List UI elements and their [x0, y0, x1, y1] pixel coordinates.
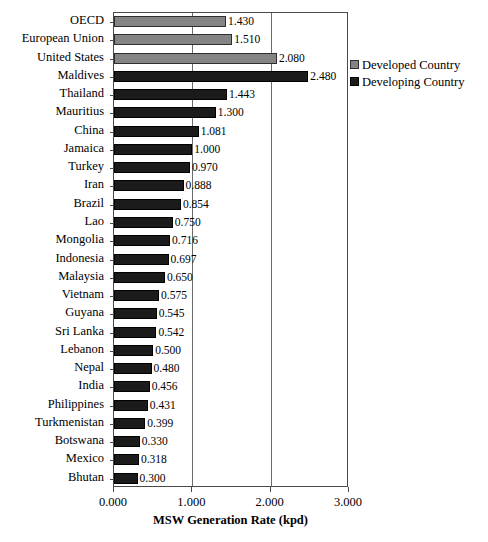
category-label: Botswana [0, 434, 108, 447]
bar-row: 0.888 [114, 177, 347, 195]
bar [114, 235, 170, 246]
bar-value-label: 1.430 [226, 14, 254, 29]
plot-area: 1.4301.5102.0802.4801.4431.3001.0811.000… [113, 12, 348, 487]
category-label: Malaysia [0, 270, 108, 283]
bar [114, 254, 169, 265]
category-label: Mongolia [0, 233, 108, 246]
bar-value-label: 1.000 [192, 142, 220, 157]
bar [114, 126, 199, 137]
category-label: India [0, 379, 108, 392]
bar [114, 473, 138, 484]
x-axis-tick [191, 487, 192, 492]
bar [114, 345, 153, 356]
bar-row: 0.750 [114, 214, 347, 232]
category-label: Turkey [0, 160, 108, 173]
bar-row: 1.430 [114, 13, 347, 31]
legend-swatch-developing [350, 77, 359, 86]
bar-value-label: 0.542 [156, 325, 184, 340]
bar [114, 381, 150, 392]
bar-row: 0.542 [114, 324, 347, 342]
category-label: Maldives [0, 69, 108, 82]
category-label: Guyana [0, 306, 108, 319]
bar-row: 2.480 [114, 68, 347, 86]
bar-value-label: 0.854 [181, 197, 209, 212]
bar-row: 1.300 [114, 104, 347, 122]
category-label: Sri Lanka [0, 325, 108, 338]
msw-generation-rate-bar-chart: OECDEuropean UnionUnited StatesMaldivesT… [0, 0, 488, 542]
bar-row: 0.330 [114, 433, 347, 451]
legend-label: Developed Country [362, 58, 460, 72]
x-axis-tick-labels: 0.0001.0002.0003.000 [0, 494, 488, 512]
bar [114, 436, 140, 447]
bar-row: 0.716 [114, 232, 347, 250]
x-axis-tick [113, 487, 114, 492]
bar-value-label: 0.697 [169, 252, 197, 267]
bar-row: 1.443 [114, 86, 347, 104]
bar-row: 0.456 [114, 378, 347, 396]
bar-row: 0.697 [114, 251, 347, 269]
bar-row: 0.575 [114, 287, 347, 305]
bar-value-label: 0.456 [150, 379, 178, 394]
bar [114, 199, 181, 210]
legend-label: Developing Country [362, 75, 464, 89]
category-label: European Union [0, 32, 108, 45]
bar [114, 327, 156, 338]
x-axis-tick-label: 0.000 [99, 494, 127, 510]
bar-value-label: 1.300 [216, 105, 244, 120]
x-axis-tick [348, 487, 349, 492]
bar [114, 217, 173, 228]
category-label: Lao [0, 215, 108, 228]
category-label: Philippines [0, 398, 108, 411]
bar [114, 400, 148, 411]
bar-value-label: 0.970 [190, 160, 218, 175]
bar-value-label: 0.300 [138, 471, 166, 486]
bar-value-label: 0.750 [173, 215, 201, 230]
category-label: United States [0, 51, 108, 64]
bar-row: 1.510 [114, 31, 347, 49]
x-axis-title: MSW Generation Rate (kpd) [113, 513, 348, 528]
chart-legend: Developed CountryDeveloping Country [350, 56, 464, 90]
bar [114, 363, 152, 374]
x-axis-tick-label: 1.000 [177, 494, 205, 510]
category-label: Turkmenistan [0, 416, 108, 429]
bar-row: 1.081 [114, 123, 347, 141]
bar [114, 418, 145, 429]
bar-row: 0.318 [114, 451, 347, 469]
bar-value-label: 0.716 [170, 233, 198, 248]
bar [114, 290, 159, 301]
bar-row: 0.650 [114, 269, 347, 287]
bar-value-label: 1.081 [199, 124, 227, 139]
bar-value-label: 0.500 [153, 343, 181, 358]
x-axis-tick-label: 2.000 [256, 494, 284, 510]
x-axis-tick-label: 3.000 [334, 494, 362, 510]
bar-row: 0.300 [114, 470, 347, 488]
bar-row: 0.480 [114, 360, 347, 378]
bar-row: 0.500 [114, 342, 347, 360]
category-label: Indonesia [0, 252, 108, 265]
bar-value-label: 2.480 [308, 69, 336, 84]
bar [114, 308, 157, 319]
category-label: Jamaica [0, 142, 108, 155]
bar [114, 272, 165, 283]
bar-value-label: 0.480 [152, 361, 180, 376]
bar [114, 107, 216, 118]
bar-row: 0.399 [114, 415, 347, 433]
bar [114, 34, 232, 45]
x-axis-ticks [113, 487, 348, 493]
bar-value-label: 0.650 [165, 270, 193, 285]
category-label: China [0, 124, 108, 137]
bar [114, 71, 308, 82]
bar-value-label: 0.431 [148, 398, 176, 413]
category-label: Brazil [0, 197, 108, 210]
bar-row: 0.545 [114, 305, 347, 323]
category-label: Mauritius [0, 105, 108, 118]
bar [114, 162, 190, 173]
bar-row: 0.970 [114, 159, 347, 177]
bar-value-label: 2.080 [277, 51, 305, 66]
bar-value-label: 1.510 [232, 32, 260, 47]
bar-value-label: 0.545 [157, 306, 185, 321]
legend-item-developed: Developed Country [350, 56, 464, 73]
bar [114, 454, 139, 465]
bar-row: 2.080 [114, 50, 347, 68]
category-label: OECD [0, 14, 108, 27]
